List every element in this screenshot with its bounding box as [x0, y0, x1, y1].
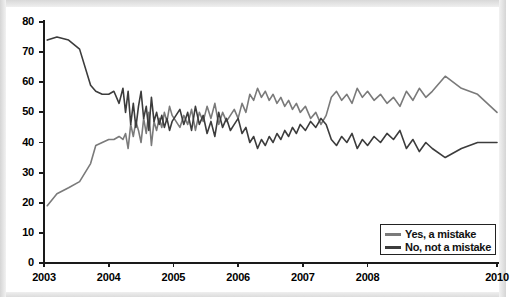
y-axis-tick-label: 30 [8, 166, 34, 178]
legend-item-yes-a-mistake: Yes, a mistake [385, 228, 495, 240]
y-axis-tick-label: 10 [8, 226, 34, 238]
x-axis-tick-label: 2003 [20, 271, 68, 283]
y-axis-tick-label: 50 [8, 105, 34, 117]
y-axis-tick-label: 20 [8, 196, 34, 208]
x-axis-tick-label: 2004 [85, 271, 133, 283]
y-axis-tick-label: 0 [8, 256, 34, 268]
x-axis-tick-label: 2007 [279, 271, 327, 283]
y-axis-tick-label: 60 [8, 75, 34, 87]
x-axis-tick-label: 2006 [214, 271, 262, 283]
x-axis-tick-label: 2005 [149, 271, 197, 283]
x-axis-tick-label: 2008 [344, 271, 392, 283]
legend-label-yes-a-mistake: Yes, a mistake [405, 228, 476, 240]
legend-item-no-not-a-mistake: No, not a mistake [385, 241, 495, 253]
y-axis-tick-label: 40 [8, 136, 34, 148]
y-axis-tick-label: 80 [8, 15, 34, 27]
x-axis-tick-label: 2010 [473, 271, 514, 283]
series-lines [47, 37, 497, 206]
legend-label-no-not-a-mistake: No, not a mistake [405, 241, 491, 253]
chart-legend: Yes, a mistake No, not a mistake [380, 224, 496, 255]
y-axis-tick-label: 70 [8, 45, 34, 57]
legend-swatch-no-not-a-mistake [385, 246, 401, 249]
legend-swatch-yes-a-mistake [385, 233, 401, 236]
